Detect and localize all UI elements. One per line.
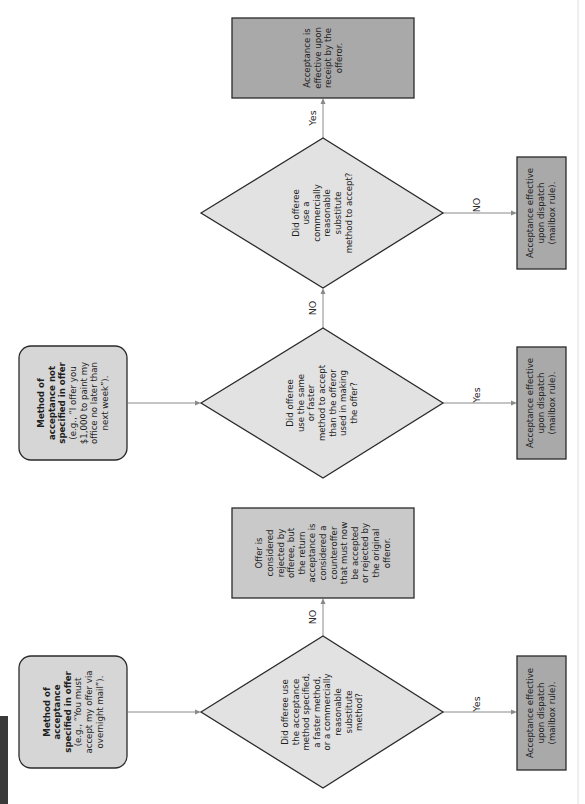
start-node-specified: Method ofacceptancespecified in offer(e.… — [19, 656, 127, 768]
edge-label-d2-no: NO — [307, 301, 318, 316]
node-label-line: or a commercially — [322, 673, 332, 750]
node-label-line: that must now — [339, 522, 349, 584]
start-node-text: Method ofacceptance notspecified in offe… — [36, 362, 110, 445]
arrow-head — [511, 710, 517, 715]
outcome-text: Offer isconsideredrejected byofferee, bu… — [254, 522, 391, 584]
node-label-line: the original — [371, 529, 381, 578]
node-label-line: method specified, — [301, 673, 311, 750]
node-label-line: Offer is — [254, 537, 264, 569]
node-label-line: upon dispatch — [536, 373, 546, 434]
node-label-line: commercially — [312, 184, 322, 242]
node-label-line: substitute — [344, 690, 354, 733]
node-label-line: (mailbox rule). — [547, 682, 557, 745]
node-label-line: accept my offer via — [84, 670, 94, 753]
node-label-line: next week”). — [100, 376, 110, 431]
node-label-line: (e.g., “I offer you — [68, 366, 78, 439]
node-label-line: effective upon — [313, 27, 323, 89]
decision-d1: Did offeree usethe acceptancemethod spec… — [201, 636, 443, 788]
node-label-line: method to accept? — [344, 173, 354, 254]
node-label-line: $1,000 to paint my — [79, 362, 89, 444]
node-label-line: than the offeror — [328, 369, 338, 437]
node-label-line: Acceptance effective — [525, 668, 535, 758]
edge-label-d3-yes: NO — [471, 198, 482, 213]
node-label-line: Acceptance effective — [525, 168, 535, 258]
node-label-line: rejected by — [276, 529, 286, 577]
node-label-line: the acceptance — [291, 679, 301, 745]
node-label-line: method to accept — [317, 364, 327, 441]
decision-d2: Did offereeuse the sameor fastermethod t… — [201, 328, 443, 478]
node-label-line: acceptance — [52, 684, 62, 739]
outcome-dispatch-1: Acceptance effectiveupon dispatch(mailbo… — [517, 656, 566, 770]
node-label-line: (mailbox rule). — [547, 372, 557, 435]
node-label-line: the offer? — [349, 382, 359, 423]
outcome-rejected: Offer isconsideredrejected byofferee, bu… — [232, 508, 414, 598]
arrow-head — [321, 98, 326, 104]
node-label-line: offeror. — [334, 43, 344, 74]
arrow-head — [321, 288, 326, 294]
node-label-line: a faster method, — [312, 676, 322, 748]
node-label-line: specified in offer — [57, 362, 67, 444]
node-label-line: (mailbox rule). — [547, 182, 557, 245]
node-label-line: substitute — [333, 191, 343, 234]
arrow-head — [511, 401, 517, 406]
node-label-line: considered — [265, 529, 275, 576]
start-node-not-specified: Method ofacceptance notspecified in offe… — [19, 346, 127, 460]
node-label-line: method? — [354, 693, 364, 731]
node-label-line: reasonable — [322, 189, 332, 236]
node-label-line: offeree, but — [286, 527, 296, 578]
node-label-line: Did offeree — [285, 379, 295, 427]
edge-label-d1-yes: Yes — [471, 696, 482, 712]
node-label-line: be accepted — [350, 526, 360, 579]
page-edge-bar — [0, 716, 8, 804]
node-label-line: counteroffer — [329, 526, 339, 579]
node-label: Method ofacceptance notspecified in offe… — [36, 362, 110, 445]
node-label-line: acceptance is — [307, 523, 317, 583]
node-label-line: Method of — [42, 687, 52, 737]
edge-label-d2-yes: Yes — [471, 387, 482, 403]
node-label-line: receipt by the — [323, 28, 333, 88]
decision-d3: Did offereeuse acommerciallyreasonablesu… — [201, 138, 443, 288]
node-label-line: considered a — [318, 525, 328, 580]
node-label-line: upon dispatch — [536, 183, 546, 244]
node-label-line: reasonable — [333, 688, 343, 735]
outcome-dispatch-3: Acceptance effectiveupon dispatch(mailbo… — [517, 157, 566, 269]
arrow-head — [511, 211, 517, 216]
node-label-line: used in making — [338, 370, 348, 436]
node-label-line: (e.g., “You must — [73, 677, 83, 746]
node-label-line: use a — [301, 201, 311, 224]
node-label-line: overnight mail”). — [95, 676, 105, 749]
node-label-line: Did offeree — [291, 189, 301, 237]
edge-label-d3-no: Yes — [307, 110, 318, 126]
node-label-line: specified in offer — [63, 671, 73, 753]
acceptance-flowchart: NO Yes NO Yes Yes NO Method ofacceptance… — [0, 0, 585, 804]
node-label-line: acceptance not — [47, 366, 57, 440]
outcome-receipt: Acceptance iseffective uponreceipt by th… — [232, 18, 414, 98]
node-label-line: or rejected by — [360, 523, 370, 583]
node-label-line: offeror. — [382, 538, 392, 569]
node-label-line: the return — [297, 531, 307, 574]
node-label: Did offereeuse the sameor fastermethod t… — [285, 364, 359, 441]
node-label-line: use the same — [296, 374, 306, 432]
decision-text: Did offereeuse the sameor fastermethod t… — [285, 364, 359, 441]
node-label-line: Did offeree use — [280, 679, 290, 745]
node-label-line: Method of — [36, 378, 46, 428]
edge-label-d1-no: NO — [307, 610, 318, 625]
node-label-line: Acceptance effective — [525, 358, 535, 448]
arrow-head — [321, 598, 326, 604]
node-label: Offer isconsideredrejected byofferee, bu… — [254, 522, 391, 584]
outcome-dispatch-2: Acceptance effectiveupon dispatch(mailbo… — [517, 347, 566, 459]
node-label-line: Acceptance is — [302, 28, 312, 88]
node-label-line: office no later than — [89, 362, 99, 444]
node-label-line: or faster — [306, 384, 316, 421]
node-label-line: upon dispatch — [536, 683, 546, 744]
